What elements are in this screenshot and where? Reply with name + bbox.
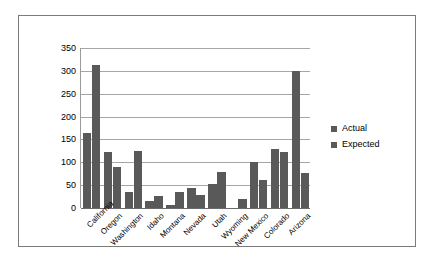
bar-expected[interactable] [301, 173, 310, 208]
bar-expected[interactable] [280, 152, 289, 208]
bars-layer [81, 48, 310, 208]
legend-swatch-icon [331, 126, 337, 132]
y-tick-label: 150 [61, 135, 76, 144]
bar-actual[interactable] [166, 205, 175, 208]
bar-actual[interactable] [145, 201, 154, 208]
bar-group [83, 48, 101, 208]
bar-group [208, 48, 226, 208]
bar-group [271, 48, 289, 208]
plot-area: 050100150200250300350 CaliforniaOregonWa… [80, 48, 310, 208]
legend-label: Expected [342, 140, 380, 149]
y-tick-label: 50 [66, 181, 76, 190]
chart-frame: 050100150200250300350 CaliforniaOregonWa… [18, 15, 416, 247]
chart-legend: ActualExpected [331, 124, 409, 156]
bar-expected[interactable] [196, 195, 205, 208]
bar-actual[interactable] [187, 188, 196, 208]
bar-actual[interactable] [125, 192, 134, 208]
y-tick-label: 200 [61, 112, 76, 121]
bar-group [125, 48, 143, 208]
bar-actual[interactable] [250, 162, 259, 208]
bar-group [292, 48, 310, 208]
bar-expected[interactable] [175, 192, 184, 208]
bar-group [166, 48, 184, 208]
bar-group [250, 48, 268, 208]
y-tick-label: 0 [71, 204, 76, 213]
axis-line-zero [81, 208, 310, 209]
bar-group [104, 48, 122, 208]
bar-group [187, 48, 205, 208]
bar-expected[interactable] [154, 196, 163, 208]
legend-item[interactable]: Actual [331, 124, 409, 133]
legend-swatch-icon [331, 142, 337, 148]
bar-expected[interactable] [92, 65, 101, 208]
bar-actual[interactable] [83, 133, 92, 208]
bar-expected[interactable] [259, 180, 268, 208]
bar-expected[interactable] [134, 151, 143, 208]
y-tick-label: 350 [61, 44, 76, 53]
legend-item[interactable]: Expected [331, 140, 409, 149]
y-tick-label: 250 [61, 89, 76, 98]
bar-actual[interactable] [208, 184, 217, 208]
bar-group [229, 48, 247, 208]
bar-group [145, 48, 163, 208]
bar-expected[interactable] [217, 172, 226, 208]
bar-expected[interactable] [113, 167, 122, 208]
y-tick-label: 100 [61, 158, 76, 167]
bar-actual[interactable] [292, 71, 301, 208]
bar-actual[interactable] [271, 149, 280, 208]
legend-label: Actual [342, 124, 367, 133]
bar-expected[interactable] [238, 199, 247, 208]
y-tick-label: 300 [61, 66, 76, 75]
